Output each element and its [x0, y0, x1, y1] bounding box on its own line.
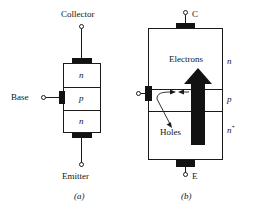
holes-arrow-right-icon [157, 90, 176, 99]
holes-arrow-down-icon [157, 99, 172, 128]
flow-arrows-overlay [0, 0, 256, 212]
holes-arrow-left-icon [178, 90, 189, 95]
electrons-arrow-icon [184, 68, 212, 145]
bjt-figure: Collector n p n Base Emitter (a) C [0, 0, 256, 212]
